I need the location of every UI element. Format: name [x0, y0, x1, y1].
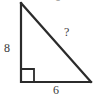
triangle-drawing	[0, 0, 97, 101]
vertical-leg-label: 8	[4, 42, 10, 54]
triangle-hypotenuse	[21, 3, 91, 82]
hypotenuse-label: ?	[64, 26, 69, 38]
base-leg-label: 6	[53, 84, 59, 96]
right-angle-marker-icon	[21, 69, 34, 82]
right-triangle-figure: 8 6 ? c	[0, 0, 97, 101]
clipped-top-label: c	[55, 0, 60, 3]
